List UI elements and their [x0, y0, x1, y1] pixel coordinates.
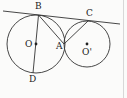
geometry-diagram: B C A O O' D	[0, 0, 127, 98]
center-o-dot	[35, 43, 38, 46]
label-b: B	[35, 2, 42, 11]
label-d: D	[29, 75, 36, 84]
label-a: A	[56, 42, 63, 51]
center-o-prime-dot	[86, 43, 89, 46]
diagram-canvas	[0, 0, 127, 98]
label-o: O	[25, 40, 32, 49]
label-c: C	[86, 9, 93, 18]
label-o-prime: O'	[82, 48, 92, 57]
tangent-line	[3, 11, 120, 24]
